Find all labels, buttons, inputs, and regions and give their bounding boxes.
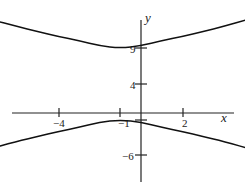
y-axis-label: y — [143, 10, 151, 25]
x-tick-label: −4 — [53, 117, 65, 129]
y-tick-label: −6 — [122, 150, 134, 162]
y-tick-label: 9 — [130, 43, 136, 55]
x-axis-label: x — [220, 110, 227, 125]
upper-branch-curve — [0, 19, 245, 47]
hyperbola-plot: −4 −1 2 9 4 −6 y x — [0, 0, 245, 189]
x-tick-label: 2 — [182, 117, 188, 129]
x-tick-label: −1 — [118, 117, 130, 129]
y-tick-label: 4 — [130, 79, 136, 91]
